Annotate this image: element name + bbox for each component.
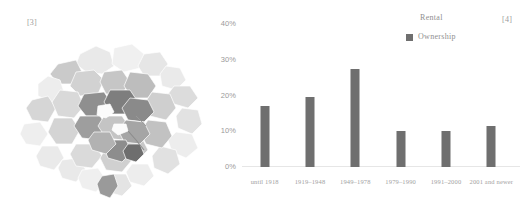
bar-chart-panel: [4] Rental Ownership 0%10%20%30%40% unti… <box>210 0 525 209</box>
legend-title: Rental <box>420 14 516 22</box>
bar-group: 1979–1990 <box>378 24 423 167</box>
x-axis-tick-label: 1949–1978 <box>340 179 371 186</box>
x-axis-tick-label: 1991–2000 <box>431 179 462 186</box>
map-figure-marker: [3] <box>27 18 37 27</box>
bar-ownership[interactable] <box>396 131 405 167</box>
x-axis-tick-label: 1979–1990 <box>385 179 416 186</box>
bar-group: until 1918 <box>242 24 287 167</box>
x-axis-tick-label: until 1918 <box>251 179 279 186</box>
bar-group: 1991–2000 <box>423 24 468 167</box>
bar-ownership[interactable] <box>487 126 496 167</box>
y-axis-tick-label: 0% <box>225 163 236 171</box>
bar-ownership[interactable] <box>260 106 269 167</box>
bar-group: 2001 and newer <box>469 24 514 167</box>
bar-group: 1919–1948 <box>287 24 332 167</box>
bar-ownership[interactable] <box>305 97 314 167</box>
y-axis-tick-label: 40% <box>221 20 236 28</box>
plot-area: 0%10%20%30%40% until 19181919–19481949–1… <box>242 24 514 167</box>
bar-ownership[interactable] <box>441 131 450 167</box>
bar-group: 1949–1978 <box>333 24 378 167</box>
x-axis-tick-label: 1919–1948 <box>295 179 326 186</box>
y-axis-tick-label: 20% <box>221 92 236 100</box>
bar-ownership[interactable] <box>351 69 360 167</box>
x-axis-tick-label: 2001 and newer <box>470 179 514 186</box>
bars-layer: until 19181919–19481949–19781979–1990199… <box>242 24 514 167</box>
figure-root: [3] <box>0 0 525 209</box>
map-panel: [3] <box>0 0 210 209</box>
y-axis-tick-label: 10% <box>221 128 236 136</box>
y-axis-tick-label: 30% <box>221 56 236 64</box>
choropleth-map <box>18 28 204 200</box>
